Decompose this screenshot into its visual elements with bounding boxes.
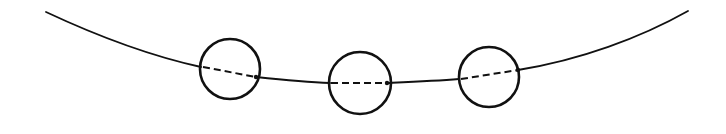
junction-dot [516,68,520,72]
hidden-line-dashed [461,70,518,79]
diagram-canvas [0,0,726,134]
curve-middle-left-segment [256,77,330,83]
curve-right-segment [518,11,688,70]
junction-dot [254,75,258,79]
curve-middle-right-segment [387,79,459,83]
circle-2 [329,52,391,114]
curve-left-segment [46,12,201,67]
circle-1 [200,39,260,99]
hidden-line-dashed [203,67,256,77]
circle-ring [459,47,519,107]
circle-3 [459,47,520,107]
junction-dot [385,81,389,85]
